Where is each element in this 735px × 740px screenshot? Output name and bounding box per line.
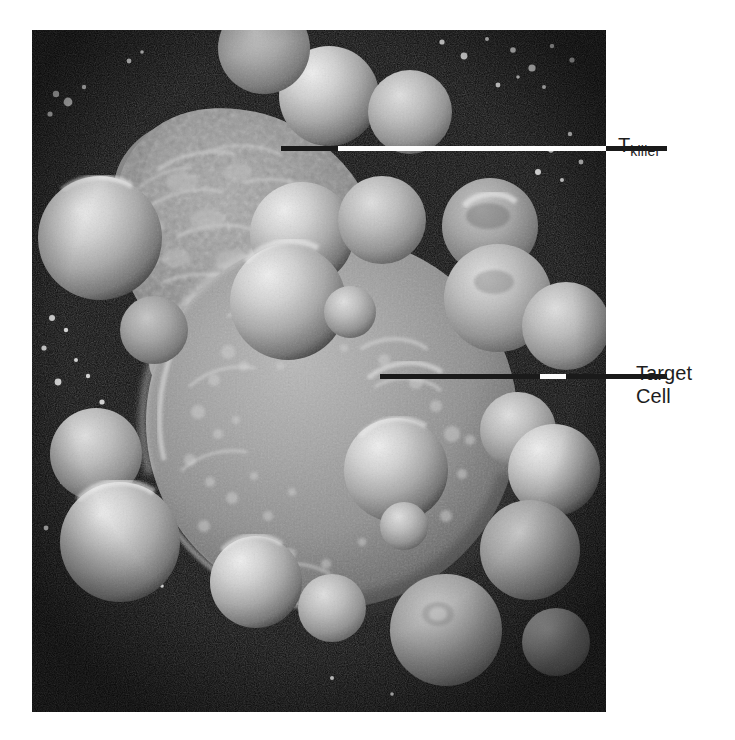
label-target-cell-line1: Target (636, 362, 692, 384)
label-t-killer-main: T (618, 134, 630, 156)
electron-micrograph-image (32, 30, 606, 712)
t-killer-leader-segment-black-right (606, 146, 667, 151)
label-t-killer-subscript: killer (630, 143, 660, 159)
label-target-cell: TargetCell (636, 362, 692, 408)
label-t-killer: Tkiller (618, 134, 660, 157)
micrograph-svg (32, 30, 606, 712)
label-target-cell-line2: Cell (636, 385, 692, 408)
figure-root: Tkiller TargetCell (0, 0, 735, 740)
